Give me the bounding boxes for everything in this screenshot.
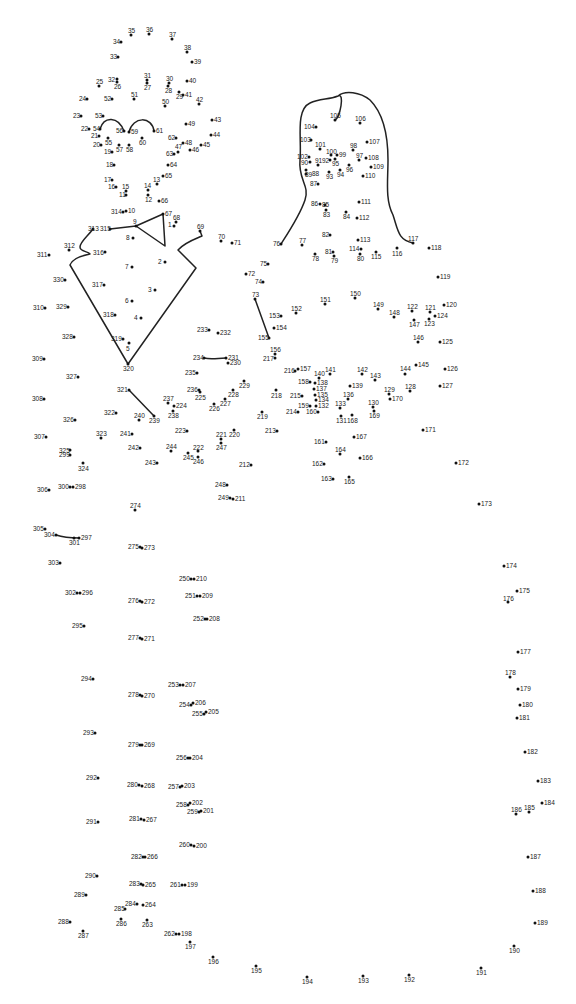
dot-label: 122 bbox=[407, 304, 418, 311]
dot-label: 219 bbox=[257, 414, 268, 421]
dot-label: 70 bbox=[218, 234, 225, 241]
dot-label: 167 bbox=[356, 434, 367, 441]
dot-label: 168 bbox=[347, 418, 358, 425]
dot-label: 68 bbox=[173, 215, 180, 222]
dot-32[interactable] bbox=[116, 78, 119, 81]
dot-label: 22 bbox=[81, 126, 88, 133]
dot-label: 214 bbox=[286, 409, 297, 416]
dot-label: 48 bbox=[185, 140, 192, 147]
dot-label: 14 bbox=[144, 183, 151, 190]
dot-label: 250 bbox=[179, 576, 190, 583]
dot-86[interactable] bbox=[319, 203, 322, 206]
dot-label: 183 bbox=[540, 778, 551, 785]
dot-label: 25 bbox=[96, 79, 103, 86]
dot-label: 322 bbox=[104, 410, 115, 417]
dot-label: 280 bbox=[127, 782, 138, 789]
dot-label: 268 bbox=[144, 783, 155, 790]
dot-label: 318 bbox=[103, 312, 114, 319]
dot-label: 92 bbox=[322, 158, 329, 165]
dot-label: 209 bbox=[202, 593, 213, 600]
dot-311[interactable] bbox=[48, 254, 51, 257]
dot-8[interactable] bbox=[132, 237, 135, 240]
dot-label: 45 bbox=[203, 142, 210, 149]
dot-label: 271 bbox=[144, 636, 155, 643]
dot-to-dot-canvas: 1234567891011121314151617181920212223242… bbox=[0, 0, 576, 1004]
dot-4[interactable] bbox=[140, 317, 143, 320]
line-73-155 bbox=[255, 299, 269, 338]
dot-label: 314 bbox=[111, 209, 122, 216]
dot-label: 227 bbox=[220, 401, 231, 408]
dot-47[interactable] bbox=[177, 151, 180, 154]
dot-label: 259 bbox=[187, 809, 198, 816]
dot-label: 179 bbox=[520, 686, 531, 693]
dot-label: 12 bbox=[145, 197, 152, 204]
dot-label: 184 bbox=[544, 800, 555, 807]
dot-label: 102 bbox=[297, 154, 308, 161]
dot-label: 170 bbox=[392, 396, 403, 403]
dot-label: 104 bbox=[304, 124, 315, 131]
dot-90[interactable] bbox=[309, 161, 312, 164]
dot-114[interactable] bbox=[360, 248, 363, 251]
dot-label: 228 bbox=[228, 392, 239, 399]
dot-label: 60 bbox=[139, 140, 146, 147]
dot-label: 213 bbox=[265, 428, 276, 435]
dot-label: 252 bbox=[193, 616, 204, 623]
dot-label: 84 bbox=[343, 214, 350, 221]
dot-label: 8 bbox=[126, 235, 130, 242]
dot-label: 38 bbox=[184, 45, 191, 52]
dot-label: 320 bbox=[123, 366, 134, 373]
dot-2[interactable] bbox=[164, 261, 167, 264]
dot-label: 163 bbox=[321, 476, 332, 483]
dot-label: 172 bbox=[458, 460, 469, 467]
dot-144[interactable] bbox=[404, 373, 407, 376]
dot-6[interactable] bbox=[131, 300, 134, 303]
dot-label: 169 bbox=[369, 413, 380, 420]
dot-label: 69 bbox=[197, 224, 204, 231]
dot-label: 207 bbox=[185, 682, 196, 689]
dot-3[interactable] bbox=[154, 289, 157, 292]
dot-label: 51 bbox=[131, 92, 138, 99]
dot-label: 212 bbox=[239, 462, 250, 469]
dot-label: 296 bbox=[82, 590, 93, 597]
dot-label: 24 bbox=[79, 96, 86, 103]
dot-label: 234 bbox=[193, 355, 204, 362]
dot-label: 155 bbox=[258, 335, 269, 342]
dot-label: 201 bbox=[203, 808, 214, 815]
dot-label: 249 bbox=[218, 495, 229, 502]
dot-label: 77 bbox=[299, 238, 306, 245]
dot-label: 95 bbox=[332, 161, 339, 168]
dot-label: 94 bbox=[337, 172, 344, 179]
dot-label: 237 bbox=[163, 396, 174, 403]
dot-label: 1 bbox=[168, 222, 172, 229]
dot-label: 67 bbox=[165, 211, 172, 218]
dot-label: 140 bbox=[314, 371, 325, 378]
dot-label: 138 bbox=[317, 380, 328, 387]
dot-1[interactable] bbox=[173, 225, 176, 228]
line-304-297 bbox=[56, 535, 79, 538]
dot-label: 193 bbox=[358, 978, 369, 985]
dot-label: 112 bbox=[359, 215, 369, 222]
dot-label: 20 bbox=[93, 142, 100, 149]
dot-label: 247 bbox=[216, 445, 227, 452]
dot-label: 9 bbox=[133, 219, 137, 226]
dot-7[interactable] bbox=[131, 266, 134, 269]
dot-label: 107 bbox=[369, 139, 380, 146]
dot-label: 208 bbox=[209, 616, 220, 623]
dot-label: 236 bbox=[187, 387, 198, 394]
dot-label: 324 bbox=[78, 466, 89, 473]
dot-label: 319 bbox=[111, 336, 122, 343]
dot-label: 248 bbox=[215, 482, 226, 489]
dot-label: 11 bbox=[119, 192, 126, 199]
dot-label: 49 bbox=[188, 121, 195, 128]
dot-label: 54 bbox=[93, 126, 100, 133]
dot-label: 90 bbox=[301, 160, 308, 167]
dot-label: 223 bbox=[175, 428, 186, 435]
dot-label: 147 bbox=[409, 322, 420, 329]
dot-label: 101 bbox=[315, 142, 326, 149]
dot-label: 52 bbox=[104, 96, 111, 103]
dot-label: 146 bbox=[413, 335, 424, 342]
dot-label: 317 bbox=[92, 282, 103, 289]
dot-label: 311 bbox=[37, 252, 47, 259]
dot-label: 300 bbox=[58, 484, 69, 491]
dot-label: 241 bbox=[120, 431, 131, 438]
